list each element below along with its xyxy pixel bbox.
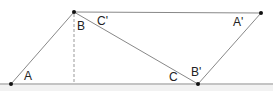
diagram-canvas: A B C' A' C B' (0, 0, 273, 91)
label-a-prime: A' (233, 15, 243, 29)
label-b-prime: B' (191, 65, 201, 79)
point-b (72, 10, 76, 14)
side-bprime-aprime (198, 13, 261, 84)
side-a-b (11, 12, 74, 84)
label-c: C (169, 70, 178, 84)
label-b: B (77, 19, 85, 33)
diagonal-b-bprime (74, 12, 198, 84)
baseline-band (0, 85, 273, 91)
point-a-prime (259, 11, 263, 15)
point-a (9, 82, 13, 86)
top-side-b-aprime (74, 12, 261, 13)
point-b-prime (196, 82, 200, 86)
label-a: A (24, 69, 32, 83)
label-c-prime: C' (97, 14, 108, 28)
